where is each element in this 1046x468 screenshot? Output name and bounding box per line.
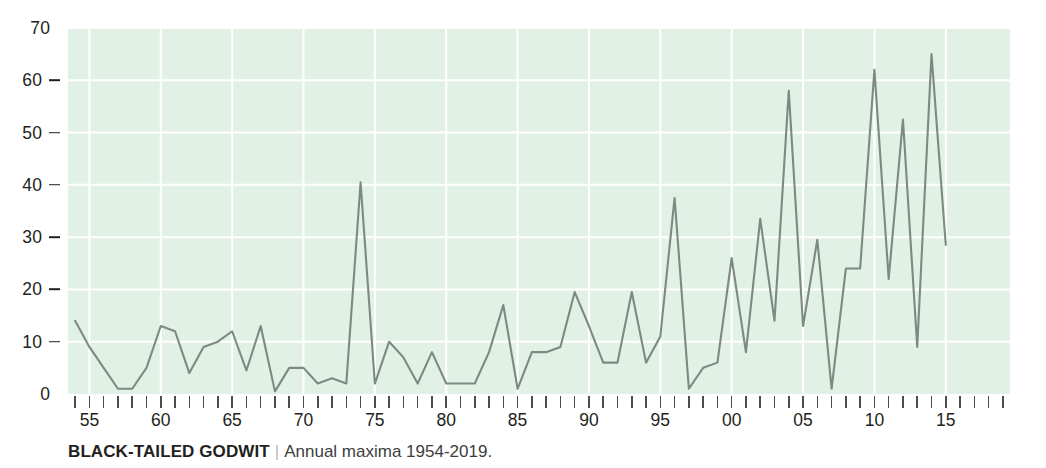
x-tick-mark (988, 396, 990, 408)
x-tick-label: 55 (80, 410, 99, 431)
x-tick-mark (788, 396, 790, 408)
x-tick-label: 95 (651, 410, 670, 431)
x-tick-mark (189, 396, 191, 408)
x-tick-label: 05 (793, 410, 812, 431)
x-tick-mark (103, 396, 105, 408)
x-tick-label: 85 (508, 410, 527, 431)
x-tick-mark (902, 396, 904, 408)
x-tick-mark (260, 396, 262, 408)
x-tick-mark (474, 396, 476, 408)
x-tick-mark (845, 396, 847, 408)
caption-subtitle: Annual maxima 1954-2019. (284, 442, 492, 461)
x-tick-mark (131, 396, 133, 408)
x-tick-mark (945, 396, 947, 408)
x-tick-mark (931, 396, 933, 408)
x-tick-mark (631, 396, 633, 408)
x-tick-mark (702, 396, 704, 408)
x-tick-mark (688, 396, 690, 408)
x-tick-mark (745, 396, 747, 408)
x-tick-mark (617, 396, 619, 408)
x-tick-mark (445, 396, 447, 408)
x-tick-mark (431, 396, 433, 408)
y-tick-mark (49, 341, 60, 343)
y-tick-mark (49, 184, 60, 186)
x-tick-mark (303, 396, 305, 408)
x-tick-label: 60 (151, 410, 170, 431)
x-tick-mark (388, 396, 390, 408)
x-tick-mark (874, 396, 876, 408)
x-tick-label: 90 (579, 410, 598, 431)
caption: BLACK-TAILED GODWIT|Annual maxima 1954-2… (68, 442, 492, 462)
x-tick-mark (217, 396, 219, 408)
chart-root: 010203040506070 556065707580859095000510… (0, 0, 1046, 468)
x-tick-mark (460, 396, 462, 408)
x-tick-mark (288, 396, 290, 408)
x-tick-mark (831, 396, 833, 408)
x-tick-mark (160, 396, 162, 408)
x-tick-mark (731, 396, 733, 408)
x-tick-label: 00 (722, 410, 741, 431)
x-tick-label: 80 (436, 410, 455, 431)
x-tick-mark (974, 396, 976, 408)
x-tick-mark (674, 396, 676, 408)
plot-svg (68, 28, 1010, 394)
y-tick-label: 40 (22, 174, 42, 195)
y-tick-label: 30 (22, 227, 42, 248)
x-tick-mark (1002, 396, 1004, 408)
gridlines (68, 28, 1010, 394)
x-tick-mark (488, 396, 490, 408)
x-tick-mark (602, 396, 604, 408)
y-tick-label: 20 (22, 279, 42, 300)
x-tick-mark (403, 396, 405, 408)
x-tick-mark (759, 396, 761, 408)
x-tick-mark (959, 396, 961, 408)
x-tick-label: 10 (865, 410, 884, 431)
x-tick-mark (146, 396, 148, 408)
x-tick-mark (645, 396, 647, 408)
y-tick-mark (49, 289, 60, 291)
x-tick-mark (802, 396, 804, 408)
y-tick-label: 50 (22, 122, 42, 143)
y-tick-label: 0 (40, 384, 50, 405)
x-tick-mark (531, 396, 533, 408)
x-tick-mark (174, 396, 176, 408)
x-tick-mark (374, 396, 376, 408)
y-tick-label: 10 (22, 331, 42, 352)
x-tick-label: 65 (222, 410, 241, 431)
y-axis: 010203040506070 (0, 0, 68, 420)
x-tick-mark (545, 396, 547, 408)
x-tick-mark (246, 396, 248, 408)
plot-area (68, 28, 1010, 394)
x-tick-mark (774, 396, 776, 408)
y-tick-label: 70 (30, 18, 50, 39)
x-tick-mark (660, 396, 662, 408)
x-tick-mark (888, 396, 890, 408)
x-tick-mark (89, 396, 91, 408)
x-tick-mark (817, 396, 819, 408)
x-tick-mark (74, 396, 76, 408)
x-tick-label: 15 (936, 410, 955, 431)
caption-separator: | (270, 442, 284, 461)
y-tick-mark (49, 132, 60, 134)
y-tick-mark (49, 236, 60, 238)
x-tick-mark (588, 396, 590, 408)
y-tick-mark (49, 79, 60, 81)
x-tick-mark (916, 396, 918, 408)
y-tick-label: 60 (22, 70, 42, 91)
x-tick-mark (560, 396, 562, 408)
x-tick-mark (517, 396, 519, 408)
x-tick-mark (417, 396, 419, 408)
x-tick-mark (717, 396, 719, 408)
x-tick-label: 70 (294, 410, 313, 431)
x-tick-mark (859, 396, 861, 408)
x-tick-mark (360, 396, 362, 408)
x-axis: 55606570758085909500051015 (68, 394, 1010, 434)
caption-title: BLACK-TAILED GODWIT (68, 442, 270, 461)
x-tick-mark (203, 396, 205, 408)
x-tick-mark (274, 396, 276, 408)
x-tick-mark (574, 396, 576, 408)
x-tick-mark (346, 396, 348, 408)
x-tick-mark (503, 396, 505, 408)
x-tick-label: 75 (365, 410, 384, 431)
x-tick-mark (231, 396, 233, 408)
